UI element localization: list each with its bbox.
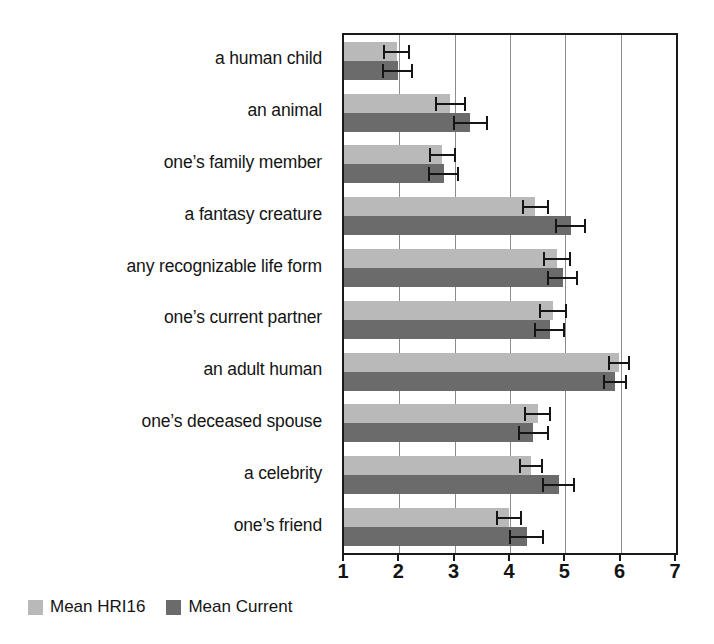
legend-swatch-icon [28, 600, 43, 615]
error-bar-cap [486, 116, 488, 130]
error-bar-cap [549, 407, 551, 421]
x-axis-tick-label: 6 [614, 560, 625, 583]
error-bar [384, 51, 408, 53]
error-bar [523, 206, 547, 208]
category-label: one’s current partner [8, 292, 334, 344]
error-bar-cap [496, 511, 498, 525]
error-bar-cap [555, 219, 557, 233]
category-label: a celebrity [8, 447, 334, 499]
bar-row [344, 113, 676, 132]
legend-label: Mean HRI16 [50, 597, 145, 617]
bar-current [344, 113, 470, 132]
bar-row [344, 94, 676, 113]
error-bar [609, 362, 629, 364]
legend-entry: Mean Current [166, 597, 292, 617]
bar-group [344, 242, 676, 294]
error-bar-cap [547, 271, 549, 285]
error-bar-cap [411, 64, 413, 78]
bar-row [344, 268, 676, 287]
bar-group [344, 501, 676, 553]
error-bar [383, 70, 412, 72]
bar-group [344, 87, 676, 139]
bar-group [344, 449, 676, 501]
category-label: one’s friend [8, 499, 334, 551]
bar-chart-figure: a human childan animalone’s family membe… [0, 0, 714, 644]
legend-label: Mean Current [188, 597, 292, 617]
bar-row [344, 508, 676, 527]
error-bar-cap [547, 200, 549, 214]
bar-hri16 [344, 404, 538, 423]
chart-legend: Mean HRI16Mean Current [28, 597, 302, 617]
bar-hri16 [344, 456, 531, 475]
error-bar-cap [584, 219, 586, 233]
error-bar-cap [520, 511, 522, 525]
error-bar-cap [435, 97, 437, 111]
bar-row [344, 475, 676, 494]
bar-group [344, 398, 676, 450]
bar-group [344, 35, 676, 87]
bar-row [344, 456, 676, 475]
bar-row [344, 404, 676, 423]
error-bar [556, 225, 585, 227]
bar-current [344, 216, 571, 235]
error-bar-cap [518, 426, 520, 440]
error-bar-cap [542, 478, 544, 492]
error-bar-cap [429, 148, 431, 162]
error-bar-cap [608, 356, 610, 370]
category-label: an adult human [8, 344, 334, 396]
error-bar-cap [542, 530, 544, 544]
error-bar-cap [453, 116, 455, 130]
error-bar-cap [543, 252, 545, 266]
bar-row [344, 423, 676, 442]
error-bar-cap [454, 148, 456, 162]
category-label: a human child [8, 33, 334, 85]
error-bar-cap [522, 200, 524, 214]
error-bar [519, 432, 548, 434]
error-bar-cap [576, 271, 578, 285]
bar-group [344, 190, 676, 242]
category-label: a fantasy creature [8, 188, 334, 240]
bar-groups [344, 35, 676, 553]
error-bar-cap [428, 167, 430, 181]
error-bar [544, 258, 571, 260]
bar-row [344, 42, 676, 61]
error-bar-cap [539, 304, 541, 318]
bar-hri16 [344, 301, 553, 320]
error-bar-cap [519, 459, 521, 473]
bar-row [344, 320, 676, 339]
x-axis-tick-label: 5 [559, 560, 570, 583]
bar-row [344, 353, 676, 372]
bar-current [344, 423, 533, 442]
bar-current [344, 372, 615, 391]
error-bar-cap [603, 375, 605, 389]
x-axis-tick-labels: 1234567 [342, 560, 676, 588]
bar-hri16 [344, 145, 442, 164]
bar-row [344, 301, 676, 320]
error-bar [454, 122, 487, 124]
error-bar-cap [547, 426, 549, 440]
error-bar-cap [382, 64, 384, 78]
error-bar-cap [457, 167, 459, 181]
category-axis-labels: a human childan animalone’s family membe… [8, 33, 334, 551]
bar-row [344, 145, 676, 164]
error-bar [497, 517, 521, 519]
category-label: one’s family member [8, 137, 334, 189]
bar-current [344, 268, 563, 287]
error-bar [525, 413, 549, 415]
error-bar-cap [534, 323, 536, 337]
error-bar-cap [625, 375, 627, 389]
bar-hri16 [344, 197, 535, 216]
x-axis-tick-label: 2 [393, 560, 404, 583]
x-axis-tick-label: 4 [503, 560, 514, 583]
bar-group [344, 139, 676, 191]
legend-entry: Mean HRI16 [28, 597, 145, 617]
category-label: any recognizable life form [8, 240, 334, 292]
x-axis-tick-label: 3 [448, 560, 459, 583]
bar-row [344, 249, 676, 268]
error-bar-cap [541, 459, 543, 473]
error-bar-cap [464, 97, 466, 111]
error-bar [604, 381, 626, 383]
error-bar [540, 310, 567, 312]
error-bar [510, 536, 543, 538]
error-bar [548, 277, 577, 279]
